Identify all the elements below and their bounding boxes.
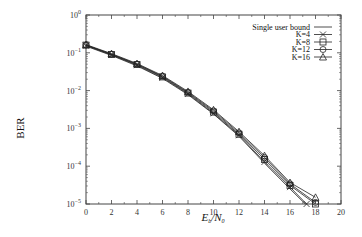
x-axis-title: Eb/N0	[200, 211, 224, 224]
y-tick-label: 10−3	[67, 122, 81, 133]
y-tick-label: 10−4	[67, 160, 81, 171]
x-tick-label: 4	[135, 208, 139, 217]
legend: Single user boundK=4K=8K=12K=16	[252, 23, 332, 62]
series-line	[86, 46, 307, 204]
x-tick-label: 12	[235, 208, 243, 217]
y-tick-label: 100	[70, 9, 81, 20]
x-tick-label: 18	[312, 208, 320, 217]
y-tick-label: 10−2	[67, 85, 81, 96]
series-k-4	[83, 43, 310, 207]
series-line	[86, 46, 305, 204]
y-tick-label: 10−5	[67, 198, 81, 209]
legend-label: K=16	[292, 53, 310, 62]
y-axis-title: BER	[14, 117, 26, 139]
x-axis-title-slash: /N	[210, 211, 222, 223]
x-axis-title-sub2: 0	[222, 218, 225, 224]
x-tick-label: 0	[84, 208, 88, 217]
plot-curves	[83, 41, 320, 207]
ber-chart: 0246810121416182010010−110−210−310−410−5…	[0, 0, 362, 237]
x-tick-label: 14	[261, 208, 269, 217]
x-tick-label: 6	[161, 208, 165, 217]
x-tick-label: 20	[337, 208, 345, 217]
series-single-user-bound	[86, 46, 305, 204]
series-k-12	[83, 42, 319, 205]
x-tick-label: 16	[286, 208, 294, 217]
x-tick-label: 8	[186, 208, 190, 217]
y-tick-label: 10−1	[67, 47, 81, 58]
series-k-16	[83, 41, 320, 200]
x-tick-label: 2	[110, 208, 114, 217]
